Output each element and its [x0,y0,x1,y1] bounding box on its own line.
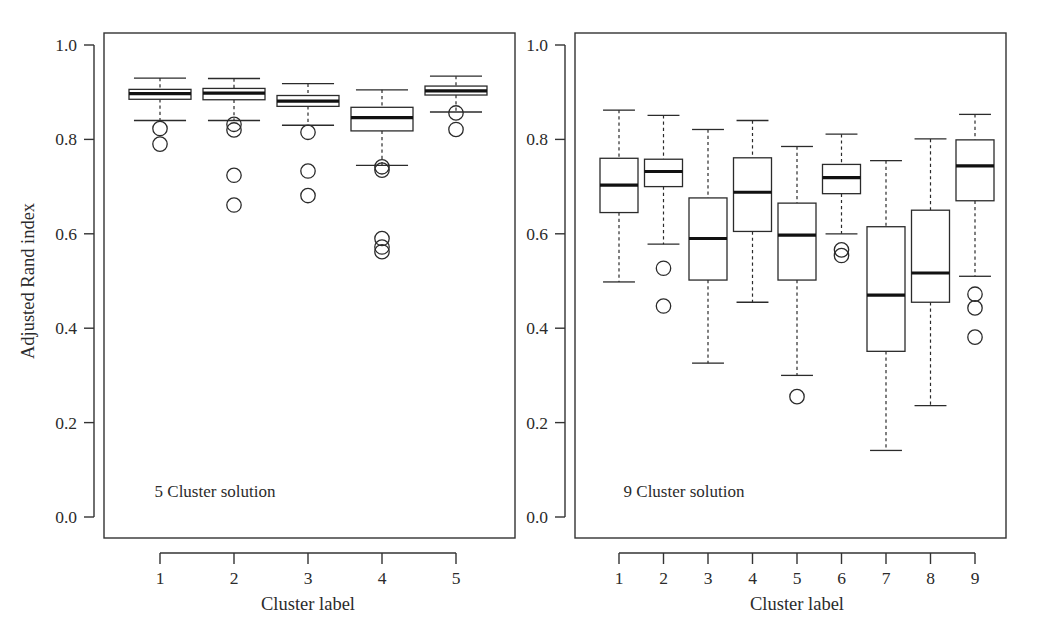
figure-canvas: 0.00.20.40.60.81.012345Cluster labelAdju… [0,0,1049,634]
x-axis-title-right: Cluster label [750,594,844,614]
box-iqr [734,158,772,232]
x-tick-label-right-6: 7 [882,568,891,588]
box-left-2[interactable] [203,79,265,213]
box-right-4[interactable] [734,121,772,303]
x-axis-right: 123456789Cluster label [615,553,980,614]
box-iqr [956,140,994,201]
x-axis-left: 12345Cluster label [156,553,461,614]
x-tick-label-left-3: 4 [378,568,387,588]
box-right-7[interactable] [867,161,905,451]
x-tick-label-left-0: 1 [156,568,165,588]
panel-right: 0.00.20.40.60.81.0123456789Cluster label… [526,33,1006,614]
outlier-point-1 [301,164,315,178]
x-axis-title-left: Cluster label [261,594,355,614]
y-tick-label-left-1: 0.2 [55,413,77,433]
box-left-1[interactable] [129,78,191,151]
x-tick-label-right-2: 3 [704,568,713,588]
outlier-point-0 [656,261,670,275]
box-iqr [912,210,950,302]
panel-left: 0.00.20.40.60.81.012345Cluster labelAdju… [18,33,515,614]
y-axis-title-left: Adjusted Rand index [18,202,38,359]
outlier-point-2 [301,188,315,202]
y-tick-label-left-4: 0.8 [55,129,77,149]
outlier-point-0 [375,160,389,174]
box-right-5[interactable] [778,146,816,403]
y-tick-label-right-5: 1.0 [526,35,548,55]
outlier-point-0 [301,125,315,139]
x-tick-label-right-5: 6 [837,568,846,588]
x-tick-label-right-0: 1 [615,568,624,588]
outlier-point-1 [449,122,463,136]
boxes-left [129,76,487,259]
boxplot-figure: 0.00.20.40.60.81.012345Cluster labelAdju… [0,0,1049,634]
box-right-6[interactable] [823,134,861,263]
x-tick-label-left-1: 2 [230,568,239,588]
y-tick-label-left-5: 1.0 [55,35,77,55]
outlier-point-0 [790,389,804,403]
x-tick-label-right-1: 2 [659,568,668,588]
x-tick-label-left-2: 3 [304,568,313,588]
box-iqr [867,227,905,352]
x-tick-label-right-7: 8 [926,568,935,588]
x-tick-label-right-4: 5 [793,568,802,588]
x-tick-label-right-8: 9 [971,568,980,588]
box-right-3[interactable] [689,129,727,363]
boxes-right [600,110,994,450]
outlier-point-3 [227,198,241,212]
outlier-point-0 [968,287,982,301]
outlier-point-1 [968,301,982,315]
x-tick-label-right-3: 4 [748,568,757,588]
y-tick-label-right-0: 0.0 [526,507,548,527]
outlier-point-2 [968,330,982,344]
x-tick-label-left-4: 5 [452,568,461,588]
plot-frame-left [104,33,515,538]
box-left-5[interactable] [425,76,487,137]
outlier-point-0 [153,121,167,135]
outlier-point-1 [656,299,670,313]
box-left-3[interactable] [277,84,339,203]
y-tick-label-right-4: 0.8 [526,129,548,149]
outlier-point-2 [227,168,241,182]
box-iqr [778,203,816,280]
outlier-point-2 [375,231,389,245]
y-tick-label-left-0: 0.0 [55,507,77,527]
box-right-9[interactable] [956,114,994,344]
y-tick-label-right-2: 0.4 [526,318,548,338]
outlier-point-1 [153,137,167,151]
box-right-8[interactable] [912,139,950,406]
y-axis-left: 0.00.20.40.60.81.0 [55,35,94,527]
box-right-1[interactable] [600,110,638,282]
y-tick-label-right-1: 0.2 [526,413,548,433]
y-tick-label-right-3: 0.6 [526,224,548,244]
y-tick-label-left-2: 0.4 [55,318,77,338]
y-tick-label-left-3: 0.6 [55,224,77,244]
y-axis-right: 0.00.20.40.60.81.0 [526,35,565,527]
box-left-4[interactable] [351,90,413,259]
panel-annotation-left: 5 Cluster solution [155,482,276,501]
box-right-2[interactable] [645,115,683,313]
panel-annotation-right: 9 Cluster solution [624,482,745,501]
